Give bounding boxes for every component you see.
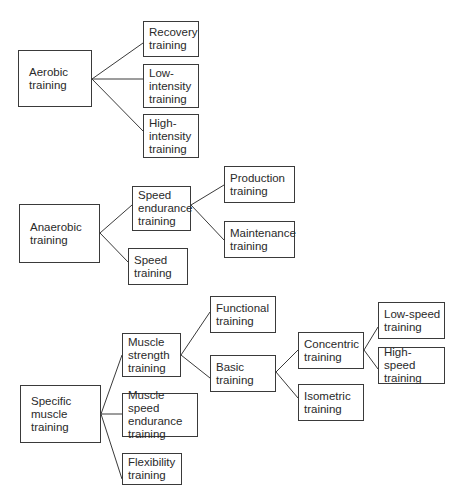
node-label: Muscle strength training	[123, 336, 173, 375]
edge-speed_endurance-to-maintenance	[191, 205, 224, 240]
edge-specific_muscle-to-muscle_strength	[101, 355, 122, 414]
edge-basic-to-isometric	[276, 372, 298, 398]
node-maintenance-training: Maintenance training	[224, 221, 295, 258]
edge-aerobic-to-recovery	[92, 43, 143, 79]
node-label: Speed endurance training	[133, 189, 195, 228]
node-aerobic-training: Aerobic training	[18, 50, 92, 107]
node-label: High-speed training	[379, 346, 444, 385]
node-high-speed-training: High-speed training	[378, 347, 445, 384]
node-label: Aerobic training	[19, 66, 91, 92]
node-flexibility-training: Flexibility training	[122, 453, 182, 485]
node-label: Specific muscle training	[21, 395, 100, 434]
edge-speed_endurance-to-production	[191, 185, 224, 205]
edge-muscle_strength-to-basic	[181, 355, 210, 378]
edge-aerobic-to-high_intensity	[92, 79, 143, 131]
node-label: Muscle speed endurance training	[123, 389, 197, 441]
node-functional-training: Functional training	[210, 296, 276, 333]
node-label: Low- intensity training	[144, 67, 194, 106]
node-anaerobic-training: Anaerobic training	[19, 204, 100, 263]
node-label: Low-speed training	[379, 308, 443, 334]
node-basic-training: Basic training	[210, 355, 276, 392]
edge-concentric-to-low_speed	[364, 327, 378, 350]
node-isometric-training: Isometric training	[298, 384, 364, 421]
node-recovery-training: Recovery training	[143, 21, 199, 57]
node-label: Production training	[225, 172, 288, 198]
node-label: Speed training	[129, 254, 175, 280]
training-tree-diagram: Aerobic training Recovery training Low- …	[0, 0, 463, 502]
edge-anaerobic-to-speed	[100, 233, 128, 262]
node-muscle-strength-training: Muscle strength training	[122, 333, 181, 377]
node-label: Isometric training	[299, 390, 354, 416]
node-low-intensity-training: Low- intensity training	[143, 64, 199, 108]
node-label: Flexibility training	[123, 456, 178, 482]
node-high-intensity-training: High- intensity training	[143, 114, 199, 158]
edge-basic-to-concentric	[276, 350, 298, 372]
node-label: High- intensity training	[144, 117, 194, 156]
edge-specific_muscle-to-flexibility	[101, 414, 122, 479]
node-label: Concentric training	[299, 338, 362, 364]
node-label: Basic training	[211, 361, 257, 387]
node-speed-training: Speed training	[128, 248, 188, 285]
node-concentric-training: Concentric training	[298, 332, 364, 369]
node-label: Anaerobic training	[20, 221, 99, 247]
node-label: Maintenance training	[225, 227, 299, 253]
node-label: Functional training	[211, 302, 272, 328]
edge-muscle_strength-to-functional	[181, 312, 210, 355]
edge-anaerobic-to-speed_endurance	[100, 205, 132, 233]
edge-concentric-to-high_speed	[364, 350, 378, 369]
node-label: Recovery training	[144, 26, 201, 52]
node-production-training: Production training	[224, 166, 295, 203]
node-muscle-speed-endurance-training: Muscle speed endurance training	[122, 393, 198, 437]
node-low-speed-training: Low-speed training	[378, 302, 445, 339]
node-speed-endurance-training: Speed endurance training	[132, 186, 191, 231]
node-specific-muscle-training: Specific muscle training	[20, 385, 101, 443]
